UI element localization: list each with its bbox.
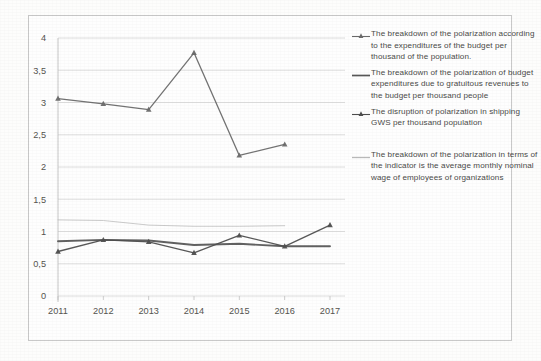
legend-label-2: The breakdown of the polarization of bud… <box>370 67 538 102</box>
series-line-4 <box>58 220 285 226</box>
legend-item-2[interactable]: The breakdown of the polarization of bud… <box>352 67 538 102</box>
series-marker-1 <box>282 141 288 146</box>
x-axis-tick-label: 2017 <box>320 306 340 316</box>
y-axis-tick-label: 2 <box>41 162 46 172</box>
y-axis-tick-label: 3 <box>41 98 46 108</box>
x-axis-tick-label: 2013 <box>138 306 158 316</box>
legend-label-4: The breakdown of the polarization in ter… <box>370 149 538 184</box>
plot-area: 00,511,522,533,5420112012201320142015201… <box>0 0 360 361</box>
x-axis-tick-label: 2011 <box>48 306 68 316</box>
series-line-1 <box>58 53 285 156</box>
y-axis-tick-label: 0 <box>41 291 46 301</box>
x-axis-tick-label: 2015 <box>229 306 249 316</box>
x-axis-tick-label: 2014 <box>184 306 204 316</box>
series-marker-1 <box>191 50 197 55</box>
x-axis-tick-label: 2012 <box>93 306 113 316</box>
y-axis-tick-label: 0,5 <box>33 259 46 269</box>
legend-item-3[interactable]: The disruption of polarization in shippi… <box>352 106 538 129</box>
legend-marker-line-triangle-icon <box>352 30 370 43</box>
legend-marker-line-icon <box>352 69 370 82</box>
legend-marker-light-line-icon <box>352 151 370 164</box>
chart-legend: The breakdown of the polarization accord… <box>352 28 538 348</box>
chart-figure: 00,511,522,533,5420112012201320142015201… <box>0 0 541 361</box>
legend-label-3: The disruption of polarization in shippi… <box>370 106 538 129</box>
legend-marker-line-triangle-alt-icon <box>352 108 370 121</box>
y-axis-tick-label: 2,5 <box>33 130 46 140</box>
series-marker-3 <box>327 222 333 227</box>
y-axis-tick-label: 3,5 <box>33 66 46 76</box>
legend-item-4[interactable]: The breakdown of the polarization in ter… <box>352 149 538 184</box>
series-marker-3 <box>237 232 243 237</box>
legend-label-1: The breakdown of the polarization accord… <box>370 28 538 63</box>
x-axis-tick-label: 2016 <box>274 306 294 316</box>
legend-item-1[interactable]: The breakdown of the polarization accord… <box>352 28 538 63</box>
series-line-3 <box>58 225 330 253</box>
y-axis-tick-label: 4 <box>41 33 46 43</box>
y-axis-tick-label: 1 <box>41 227 46 237</box>
y-axis-tick-label: 1,5 <box>33 195 46 205</box>
line-chart-svg: 00,511,522,533,5420112012201320142015201… <box>0 0 360 361</box>
